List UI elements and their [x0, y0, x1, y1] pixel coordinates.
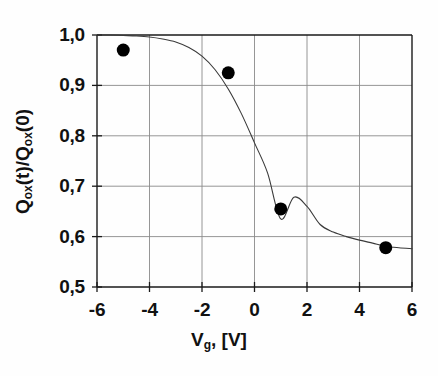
- x-tick-label: -6: [77, 300, 117, 319]
- y-axis-title-tail: (0): [12, 109, 33, 132]
- x-tick-label: 2: [287, 300, 327, 319]
- x-axis-title-sub: g: [204, 338, 211, 352]
- y-axis-title: Qox(t)/Qox(0): [13, 77, 32, 247]
- y-axis-title-sub1: ox: [21, 185, 35, 199]
- gridlines: [97, 35, 412, 287]
- data-point: [274, 202, 287, 215]
- chart-figure: 0,50,60,70,80,91,0 -6-4-20246 Vg, [V] Qo…: [0, 0, 438, 376]
- y-tick-label: 0,7: [59, 176, 85, 195]
- x-tick-label: 4: [340, 300, 380, 319]
- x-tick-label: -2: [182, 300, 222, 319]
- x-axis-title: Vg, [V]: [0, 330, 438, 349]
- data-point: [117, 44, 130, 57]
- y-tick-label: 0,8: [59, 126, 85, 145]
- y-tick-label: 0,6: [59, 227, 85, 246]
- y-tick-label: 1,0: [59, 25, 85, 44]
- y-axis-title-mid: (t)/Q: [12, 146, 33, 185]
- x-axis-title-tail: , [V]: [211, 329, 247, 350]
- y-tick-label: 0,5: [59, 277, 85, 296]
- tick-marks: [92, 35, 412, 292]
- x-axis-title-main: V: [191, 329, 204, 350]
- y-axis-title-q1: Q: [12, 199, 33, 214]
- y-axis-title-sub2: ox: [21, 132, 35, 146]
- data-point: [222, 66, 235, 79]
- x-tick-label: 0: [235, 300, 275, 319]
- data-point: [379, 241, 392, 254]
- y-tick-label: 0,9: [59, 75, 85, 94]
- x-tick-label: 6: [392, 300, 432, 319]
- x-tick-label: -4: [130, 300, 170, 319]
